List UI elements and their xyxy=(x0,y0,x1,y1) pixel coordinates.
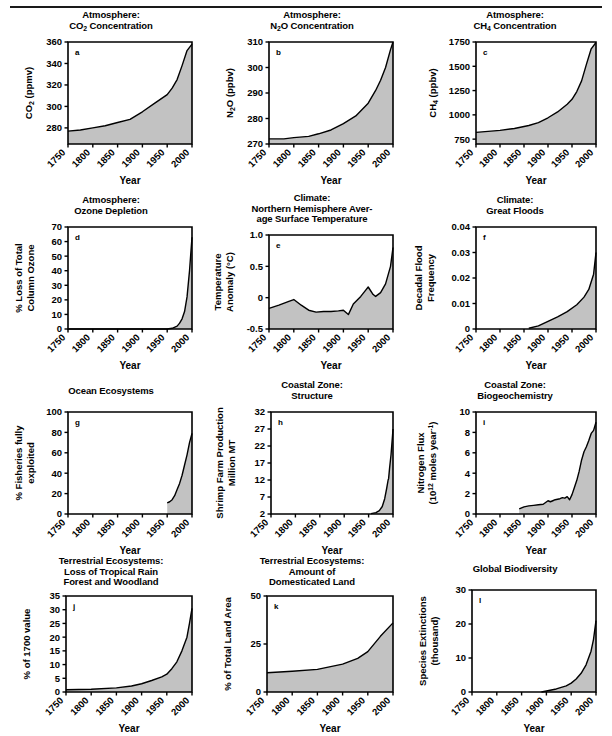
y-axis-label-g: % Fisheries fully xyxy=(13,425,24,501)
plot-area-b: 270280290300310175018001850190019502000b… xyxy=(201,8,405,189)
y-axis-label-g: exploited xyxy=(25,442,36,484)
chart-panel-l: Global Biodiversity010203017501800185019… xyxy=(404,556,608,736)
x-tick-label-c: 1900 xyxy=(525,147,548,170)
y-tick-label-g: 40 xyxy=(51,468,62,479)
x-tick-label-f: 1900 xyxy=(525,332,548,355)
y-tick-label-a: 360 xyxy=(46,36,62,47)
x-tick-label-j: 1850 xyxy=(93,695,116,718)
x-tick-label-f: 1950 xyxy=(549,332,572,355)
y-tick-label-i: 10 xyxy=(459,406,470,417)
x-tick-label-k: 1950 xyxy=(344,695,367,718)
x-tick-label-e: 1950 xyxy=(345,332,368,355)
x-axis-label-c: Year xyxy=(525,175,546,186)
chart-panel-b: Atmosphere:N2O Concentration270280290300… xyxy=(201,8,405,189)
x-tick-label-i: 1800 xyxy=(477,517,500,540)
x-tick-label-h: 1900 xyxy=(321,517,344,540)
y-tick-label-b: 290 xyxy=(247,87,263,98)
x-axis-label-d: Year xyxy=(119,360,140,371)
y-tick-label-d: 70 xyxy=(51,221,62,232)
x-tick-label-d: 1800 xyxy=(69,332,92,355)
y-tick-label-d: 30 xyxy=(51,280,62,291)
x-tick-label-b: 1800 xyxy=(270,147,293,170)
y-tick-label-b: 310 xyxy=(247,36,263,47)
chart-panel-j: Terrestrial Ecosystems:Loss of Tropical … xyxy=(0,556,204,736)
y-axis-label-d: Column Ozone xyxy=(25,244,36,311)
y-tick-label-c: 1500 xyxy=(449,61,470,72)
y-tick-label-j: 25 xyxy=(49,618,60,629)
panel-letter-f: f xyxy=(483,233,486,242)
y-tick-label-j: 15 xyxy=(49,645,60,656)
x-tick-label-k: 1850 xyxy=(294,695,317,718)
panel-letter-l: l xyxy=(479,596,481,605)
y-tick-label-h: 17 xyxy=(254,457,265,468)
x-tick-label-c: 2000 xyxy=(573,147,596,170)
x-tick-label-a: 1750 xyxy=(45,147,68,170)
y-tick-label-c: 1250 xyxy=(449,85,470,96)
x-tick-label-k: 1900 xyxy=(319,695,342,718)
y-axis-label-i: (1012 moles year-1) xyxy=(427,422,438,505)
y-tick-label-l: 10 xyxy=(455,652,466,663)
y-tick-label-h: 12 xyxy=(254,474,265,485)
y-axis-label-e: Anomaly (°C) xyxy=(224,252,235,312)
x-tick-label-j: 1800 xyxy=(68,695,91,718)
panel-letter-d: d xyxy=(75,233,80,242)
y-tick-label-i: 8 xyxy=(465,427,470,438)
y-axis-label-f: Decadal Flood xyxy=(413,245,424,310)
x-tick-label-g: 1900 xyxy=(119,517,142,540)
x-tick-label-j: 1900 xyxy=(118,695,141,718)
area-fill-i xyxy=(519,422,596,514)
chart-panel-f: Climate:Great Floods00.010.020.030.04175… xyxy=(404,193,608,374)
x-tick-label-l: 1950 xyxy=(548,695,571,718)
chart-panel-k: Terrestrial Ecosystems:Amount ofDomestic… xyxy=(201,556,405,736)
x-tick-label-i: 1750 xyxy=(453,517,476,540)
x-tick-label-f: 1850 xyxy=(501,332,524,355)
y-tick-label-i: 6 xyxy=(465,447,470,458)
y-tick-label-b: 280 xyxy=(247,113,263,124)
x-tick-label-c: 1800 xyxy=(477,147,500,170)
y-tick-label-f: 0.02 xyxy=(452,272,471,283)
series-line-d xyxy=(68,237,192,329)
plot-area-k: 02550175018001850190019502000k% of Total… xyxy=(201,556,405,736)
chart-panel-e: Climate:Northern Hemisphere Aver-age Sur… xyxy=(201,193,405,374)
y-tick-label-f: 0.04 xyxy=(452,221,471,232)
y-tick-label-d: 40 xyxy=(51,265,62,276)
x-tick-label-a: 1800 xyxy=(69,147,92,170)
y-tick-label-a: 340 xyxy=(46,58,62,69)
y-axis-label-c: CH4 (ppbv) xyxy=(427,68,439,117)
y-tick-label-e: 1.0 xyxy=(250,229,263,240)
y-tick-label-j: 35 xyxy=(49,590,60,601)
x-tick-label-i: 1900 xyxy=(525,517,548,540)
y-tick-label-j: 5 xyxy=(55,673,61,684)
x-tick-label-b: 2000 xyxy=(370,147,393,170)
x-tick-label-a: 1950 xyxy=(144,147,167,170)
chart-panel-g: Ocean Ecosystems020406080100175018001850… xyxy=(0,378,204,559)
panel-letter-i: i xyxy=(483,418,485,427)
panel-letter-b: b xyxy=(276,48,281,57)
axes-frame-d xyxy=(68,227,192,329)
y-tick-label-g: 20 xyxy=(51,488,62,499)
chart-panel-c: Atmosphere:CH4 Concentration750100012501… xyxy=(404,8,608,189)
plot-area-c: 7501000125015001750175018001850190019502… xyxy=(404,8,608,189)
y-tick-label-c: 1750 xyxy=(449,36,470,47)
x-tick-label-l: 1900 xyxy=(523,695,546,718)
x-tick-label-b: 1850 xyxy=(295,147,318,170)
x-axis-label-i: Year xyxy=(525,545,546,556)
x-axis-label-k: Year xyxy=(319,723,340,734)
x-tick-label-c: 1850 xyxy=(501,147,524,170)
y-axis-label-i: Nitrogen Flux xyxy=(415,432,426,494)
y-axis-label-l: (thousand) xyxy=(429,616,440,665)
panel-letter-g: g xyxy=(75,418,80,427)
x-tick-label-b: 1750 xyxy=(246,147,269,170)
y-tick-label-k: 50 xyxy=(250,590,261,601)
y-tick-label-f: 0.03 xyxy=(452,247,471,258)
chart-panel-i: Coastal Zone:Biogeochemistry024681017501… xyxy=(404,378,608,559)
x-tick-label-l: 2000 xyxy=(573,695,596,718)
y-tick-label-k: 25 xyxy=(250,638,261,649)
x-tick-label-d: 1750 xyxy=(45,332,68,355)
y-axis-label-d: % Loss of Total xyxy=(13,243,24,313)
chart-panel-h: Coastal Zone:Structure271217222732175018… xyxy=(201,378,405,559)
x-tick-label-d: 2000 xyxy=(169,332,192,355)
y-tick-label-l: 20 xyxy=(455,618,466,629)
x-tick-label-i: 1950 xyxy=(549,517,572,540)
x-tick-label-h: 2000 xyxy=(370,517,393,540)
